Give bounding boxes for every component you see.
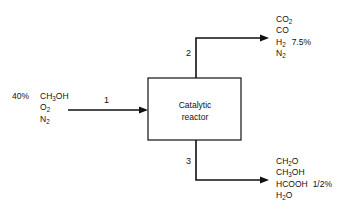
stream-1-species-o2: O2: [40, 102, 69, 113]
stream-3-species-hcooh: HCOOH1/2%: [276, 179, 332, 190]
stream-3-number: 3: [186, 156, 191, 166]
stream-2-species-co2: CO2: [276, 14, 311, 25]
stream-2-species-list: CO2 CO H27.5% N2: [276, 14, 311, 60]
stream-1-species-n2: N2: [40, 114, 69, 125]
stream-2-species-n2: N2: [276, 48, 311, 59]
stream-2-line: [196, 38, 261, 78]
stream-2-species-h2: H27.5%: [276, 37, 311, 48]
reactor-label: Catalytic reactor: [148, 100, 242, 123]
stream-3-hcooh-percent: 1/2%: [313, 179, 332, 190]
stream-1-arrowhead: [139, 106, 148, 113]
stream-1-number: 1: [104, 95, 109, 105]
reactor-label-line1: Catalytic: [148, 100, 242, 112]
stream-2-h2-percent: 7.5%: [292, 37, 311, 48]
stream-3-species-ch2o: CH2O: [276, 156, 332, 167]
stream-3-species-h2o: H2O: [276, 190, 332, 201]
stream-1-percent-label: 40%: [12, 91, 29, 102]
stream-1-species-list: CH3OH O2 N2: [40, 91, 69, 125]
stream-1-species-ch3oh: CH3OH: [40, 91, 69, 102]
reactor-label-line2: reactor: [148, 112, 242, 124]
stream-3-arrowhead: [260, 176, 269, 183]
stream-2-arrowhead: [260, 34, 269, 41]
stream-3-species-ch3oh: CH3OH: [276, 167, 332, 178]
stream-2-number: 2: [186, 48, 191, 58]
stream-3-species-list: CH2O CH3OH HCOOH1/2% H2O: [276, 156, 332, 202]
process-flow-diagram: 40% CH3OH O2 N2 1 2 3 Catalytic reactor …: [0, 0, 345, 213]
stream-3-line: [196, 140, 261, 180]
stream-2-species-co: CO: [276, 25, 311, 36]
